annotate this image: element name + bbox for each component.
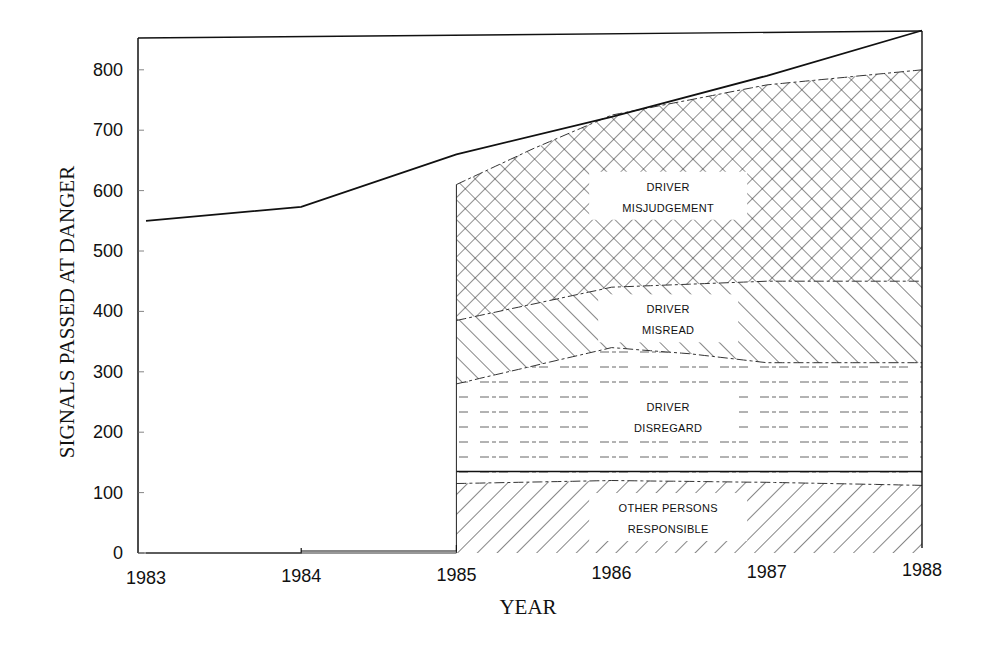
y-tick-label: 0: [113, 543, 123, 563]
y-tick-label: 600: [93, 181, 123, 201]
region-label: MISREAD: [642, 324, 694, 336]
signals-passed-chart: OTHER PERSONSRESPONSIBLEDRIVERDISREGARDD…: [0, 0, 988, 648]
y-tick-label: 200: [93, 422, 123, 442]
region-label: DRIVER: [646, 181, 689, 193]
region-label: OTHER PERSONS: [619, 502, 718, 514]
top-frame-line: [138, 31, 922, 38]
x-tick-label: 1985: [436, 565, 476, 585]
region-label: DISREGARD: [634, 422, 702, 434]
y-tick-label: 100: [93, 483, 123, 503]
x-tick-label: 1984: [281, 566, 321, 586]
region-label: RESPONSIBLE: [628, 523, 709, 535]
x-tick-label: 1986: [592, 563, 632, 583]
y-tick-label: 800: [93, 60, 123, 80]
y-tick-label: 300: [93, 362, 123, 382]
x-tick-label: 1983: [126, 568, 166, 588]
y-axis-title: SIGNALS PASSED AT DANGER: [55, 166, 79, 458]
x-axis-title: YEAR: [499, 595, 556, 619]
region-label: DRIVER: [646, 303, 689, 315]
y-tick-label: 400: [93, 301, 123, 321]
y-tick-label: 700: [93, 120, 123, 140]
region-label: DRIVER: [646, 401, 689, 413]
y-tick-label: 500: [93, 241, 123, 261]
x-tick-label: 1987: [747, 562, 787, 582]
x-tick-label: 1988: [902, 560, 942, 580]
region-label: MISJUDGEMENT: [622, 202, 714, 214]
